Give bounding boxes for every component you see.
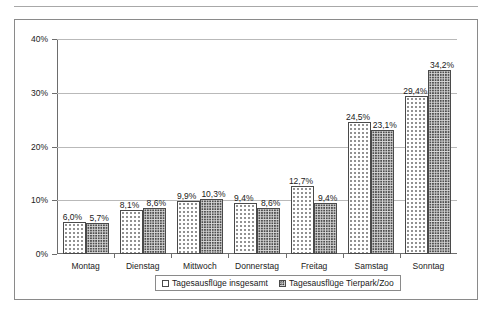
legend-item[interactable]: Tagesausflüge insgesamt bbox=[162, 278, 268, 288]
x-axis-category-label: Montag bbox=[57, 261, 114, 271]
bar-series-2[interactable]: 5,7% bbox=[86, 223, 109, 254]
bars-wrapper: 9,9%10,3% bbox=[171, 39, 228, 254]
bar-value-label: 34,2% bbox=[430, 60, 454, 70]
x-axis-category-label: Donnerstag bbox=[228, 261, 285, 271]
bar-series-2[interactable]: 34,2% bbox=[428, 70, 451, 254]
bar-series-1[interactable]: 12,7% bbox=[291, 186, 314, 254]
chart-legend: Tagesausflüge insgesamtTagesausflüge Tie… bbox=[155, 275, 401, 291]
bars-wrapper: 29,4%34,2% bbox=[400, 39, 457, 254]
bars-wrapper: 12,7%9,4% bbox=[286, 39, 343, 254]
bar-group: 8,1%8,6%Dienstag bbox=[114, 39, 171, 254]
bar-series-2[interactable]: 8,6% bbox=[257, 208, 280, 254]
bar-value-label: 23,1% bbox=[373, 120, 397, 130]
chart-inner: 0%10%20%30%40% 6,0%5,7%Montag8,1%8,6%Die… bbox=[15, 20, 477, 299]
y-axis-tick-label: 0% bbox=[36, 249, 48, 259]
bar-group: 9,4%8,6%Donnerstag bbox=[228, 39, 285, 254]
bar-group: 24,5%23,1%Samstag bbox=[343, 39, 400, 254]
bar-value-label: 8,6% bbox=[147, 198, 166, 208]
y-axis-tick-mark bbox=[52, 254, 57, 255]
x-axis-category-label: Dienstag bbox=[114, 261, 171, 271]
legend-item-label: Tagesausflüge Tierpark/Zoo bbox=[289, 278, 394, 288]
bar-series-2[interactable]: 10,3% bbox=[200, 199, 223, 254]
bar-value-label: 8,1% bbox=[120, 200, 139, 210]
x-axis-separator bbox=[400, 254, 401, 258]
bar-value-label: 6,0% bbox=[63, 212, 82, 222]
bar-series-2[interactable]: 23,1% bbox=[371, 130, 394, 254]
bars-wrapper: 8,1%8,6% bbox=[114, 39, 171, 254]
y-axis-tick-label: 10% bbox=[31, 195, 48, 205]
bar-value-label: 9,4% bbox=[318, 193, 337, 203]
bar-series-1[interactable]: 9,4% bbox=[234, 203, 257, 254]
legend-item[interactable]: Tagesausflüge Tierpark/Zoo bbox=[279, 278, 394, 288]
bar-series-1[interactable]: 6,0% bbox=[63, 222, 86, 254]
bar-value-label: 10,3% bbox=[201, 189, 225, 199]
bar-value-label: 24,5% bbox=[346, 112, 370, 122]
y-axis-tick-label: 20% bbox=[31, 142, 48, 152]
bar-value-label: 9,4% bbox=[234, 193, 253, 203]
plot-area: 0%10%20%30%40% 6,0%5,7%Montag8,1%8,6%Die… bbox=[57, 39, 457, 254]
bar-group: 6,0%5,7%Montag bbox=[57, 39, 114, 254]
bars-wrapper: 24,5%23,1% bbox=[343, 39, 400, 254]
x-axis-category-label: Samstag bbox=[343, 261, 400, 271]
x-axis-separator bbox=[171, 254, 172, 258]
x-axis-category-label: Sonntag bbox=[400, 261, 457, 271]
bar-series-1[interactable]: 29,4% bbox=[405, 96, 428, 254]
bar-group: 12,7%9,4%Freitag bbox=[286, 39, 343, 254]
x-axis-separator bbox=[114, 254, 115, 258]
top-horizontal-rule bbox=[14, 6, 478, 7]
bar-series-2[interactable]: 9,4% bbox=[314, 203, 337, 254]
bar-group: 29,4%34,2%Sonntag bbox=[400, 39, 457, 254]
bar-value-label: 8,6% bbox=[261, 198, 280, 208]
bar-series-1[interactable]: 8,1% bbox=[120, 210, 143, 254]
bar-series-1[interactable]: 9,9% bbox=[177, 201, 200, 254]
bar-value-label: 5,7% bbox=[89, 213, 108, 223]
x-axis-category-label: Mittwoch bbox=[171, 261, 228, 271]
bar-value-label: 9,9% bbox=[177, 191, 196, 201]
x-axis-separator bbox=[228, 254, 229, 258]
legend-item-label: Tagesausflüge insgesamt bbox=[172, 278, 268, 288]
bar-value-label: 29,4% bbox=[403, 86, 427, 96]
legend-swatch-series-1-icon bbox=[162, 280, 169, 287]
x-axis-category-label: Freitag bbox=[286, 261, 343, 271]
y-axis-tick-label: 30% bbox=[31, 88, 48, 98]
legend-swatch-series-2-icon bbox=[279, 280, 286, 287]
y-axis-tick-label: 40% bbox=[31, 34, 48, 44]
chart-frame: 0%10%20%30%40% 6,0%5,7%Montag8,1%8,6%Die… bbox=[14, 19, 478, 300]
x-axis-separator bbox=[343, 254, 344, 258]
bar-series-2[interactable]: 8,6% bbox=[143, 208, 166, 254]
bars-wrapper: 9,4%8,6% bbox=[228, 39, 285, 254]
bar-value-label: 12,7% bbox=[289, 176, 313, 186]
x-axis-separator bbox=[286, 254, 287, 258]
bar-series-1[interactable]: 24,5% bbox=[348, 122, 371, 254]
bars-wrapper: 6,0%5,7% bbox=[57, 39, 114, 254]
bar-group: 9,9%10,3%Mittwoch bbox=[171, 39, 228, 254]
